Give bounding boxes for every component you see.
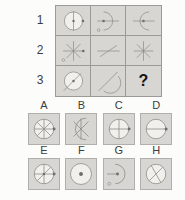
- figure-arc-diagonal: [92, 67, 125, 95]
- figure-circle-cross-diagonal-dots: [29, 159, 59, 189]
- option-label-h: H: [139, 145, 173, 156]
- figure-circle-diagonal-dot: [57, 67, 90, 95]
- option-tile-a[interactable]: [28, 113, 60, 145]
- matrix-cell-r1-c1: [56, 6, 91, 36]
- matrix-row-label-3: 3: [30, 65, 50, 95]
- option-d: D: [139, 100, 173, 145]
- option-label-b: B: [64, 100, 98, 111]
- figure-circle-vline-dot: [57, 7, 90, 35]
- option-label-c: C: [102, 100, 136, 111]
- matrix-cell-r3-c2: [91, 66, 126, 96]
- option-label-g: G: [102, 145, 136, 156]
- figure-circle-cross-right-dot: [104, 114, 134, 144]
- matrix-cell-r3-c3: ?: [126, 66, 161, 96]
- option-label-e: E: [27, 145, 61, 156]
- option-tile-e[interactable]: [28, 158, 60, 190]
- figure-circle-asterisk-right-dot: [29, 114, 59, 144]
- figure-circle-hline-right-dot: [141, 114, 171, 144]
- option-h: H: [139, 145, 173, 190]
- matrix-row-label-1: 1: [30, 5, 50, 35]
- matrix-grid: ?: [55, 5, 162, 97]
- question-mark: ?: [139, 72, 149, 90]
- matrix-cell-r2-c3: [126, 36, 161, 66]
- option-f: F: [64, 145, 98, 190]
- option-tile-d[interactable]: [140, 113, 172, 145]
- matrix-cell-r2-c2: [91, 36, 126, 66]
- option-label-a: A: [27, 100, 61, 111]
- option-label-f: F: [64, 145, 98, 156]
- option-tile-f[interactable]: [65, 158, 97, 190]
- matrix-row-label-2: 2: [30, 35, 50, 65]
- figure-arc-left-bulge-hline-dot: [127, 7, 160, 35]
- figure-circle-center-dot: [66, 159, 96, 189]
- option-tile-b[interactable]: [65, 113, 97, 145]
- option-tile-h[interactable]: [140, 158, 172, 190]
- figure-arc-right-bulge-hline-center-dot: [104, 159, 134, 189]
- matrix-cell-r2-c1: [56, 36, 91, 66]
- matrix-cell-r1-c2: [91, 6, 126, 36]
- option-tile-c[interactable]: [103, 113, 135, 145]
- option-c: C: [102, 100, 136, 145]
- matrix-cell-r1-c3: [126, 6, 161, 36]
- matrix-row-labels: 123: [30, 5, 50, 95]
- option-b: B: [64, 100, 98, 145]
- figure-arc-right-bulge-hline-dot: [92, 7, 125, 35]
- figure-asterisk: [127, 37, 160, 65]
- option-label-d: D: [139, 100, 173, 111]
- figure-halfcircle-asterisk: [66, 114, 96, 144]
- figure-asterisk-right-dot: [57, 37, 90, 65]
- matrix-cell-r3-c1: [56, 66, 91, 96]
- figure-hline-diagonal: [92, 37, 125, 65]
- figure-circle-diagonal-cross: [141, 159, 171, 189]
- option-e: E: [27, 145, 61, 190]
- option-tile-g[interactable]: [103, 158, 135, 190]
- option-a: A: [27, 100, 61, 145]
- option-g: G: [102, 145, 136, 190]
